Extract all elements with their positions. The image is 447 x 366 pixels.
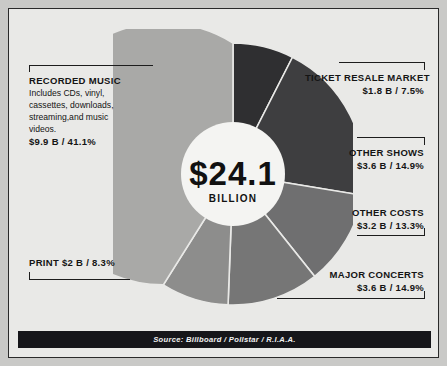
source-text: Source: Billboard / Pollstar / R.I.A.A. bbox=[153, 335, 296, 344]
callout-other-shows-title: OTHER SHOWS bbox=[309, 147, 424, 159]
callout-print-title: PRINT $2 B / 8.3% bbox=[29, 257, 154, 269]
center-total-unit: BILLION bbox=[113, 194, 353, 204]
callout-ticket-resale[interactable]: TICKET RESALE MARKET $1.8 B / 7.5% bbox=[305, 72, 424, 97]
callout-major-concerts-title: MAJOR CONCERTS bbox=[305, 269, 424, 281]
callout-other-shows-value: $3.6 B / 14.9% bbox=[309, 160, 424, 172]
callout-recorded-music-value: $9.9 B / 41.1% bbox=[29, 136, 147, 148]
callout-ticket-resale-title: TICKET RESALE MARKET bbox=[305, 72, 424, 84]
callout-recorded-music-desc-line1: Includes CDs, vinyl, bbox=[29, 88, 147, 99]
callout-recorded-music-desc-line4: videos. bbox=[29, 124, 147, 135]
source-bar: Source: Billboard / Pollstar / R.I.A.A. bbox=[18, 331, 431, 348]
leader-line-print bbox=[29, 272, 130, 280]
callout-other-costs-title: OTHER COSTS bbox=[309, 207, 424, 219]
infographic-page: $24.1 BILLION RECORDED MUSIC Includes CD… bbox=[0, 0, 447, 366]
callout-recorded-music[interactable]: RECORDED MUSIC Includes CDs, vinyl, cass… bbox=[29, 75, 147, 148]
callout-other-shows[interactable]: OTHER SHOWS $3.6 B / 14.9% bbox=[309, 147, 424, 172]
leader-line-other-costs bbox=[357, 228, 425, 236]
callout-ticket-resale-value: $1.8 B / 7.5% bbox=[305, 85, 424, 97]
callout-recorded-music-desc-line3: streaming,and music bbox=[29, 112, 147, 123]
callout-print[interactable]: PRINT $2 B / 8.3% bbox=[29, 257, 154, 269]
leader-line-other-shows bbox=[357, 137, 425, 145]
callout-recorded-music-title: RECORDED MUSIC bbox=[29, 75, 147, 87]
leader-line-recorded-music bbox=[29, 65, 153, 72]
leader-line-ticket-resale bbox=[339, 62, 425, 70]
chart-frame: $24.1 BILLION RECORDED MUSIC Includes CD… bbox=[8, 8, 439, 358]
callout-recorded-music-desc-line2: cassettes, downloads, bbox=[29, 100, 147, 111]
leader-line-major-concerts bbox=[277, 291, 425, 299]
